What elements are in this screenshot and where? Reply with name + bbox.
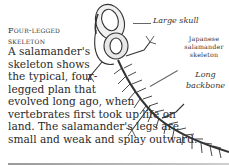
- backbone-label-line-1: Long: [195, 70, 215, 79]
- heading: Four-legged skeleton: [8, 25, 60, 47]
- backbone-label-line-2: backbone: [186, 81, 225, 90]
- heading-line-1: Four-legged: [8, 26, 60, 35]
- illustration-title: Japanese salamander skeleton: [176, 35, 229, 59]
- backbone-label: Long backbone: [186, 69, 225, 91]
- skull-label: Large skull: [153, 16, 199, 25]
- illustration-title-line-3: skeleton: [190, 51, 219, 58]
- illustration-title-line-1: Japanese: [189, 35, 219, 42]
- divider: [8, 163, 229, 165]
- illustration-title-line-2: salamander: [184, 43, 223, 50]
- skull-leader-line: [133, 23, 151, 24]
